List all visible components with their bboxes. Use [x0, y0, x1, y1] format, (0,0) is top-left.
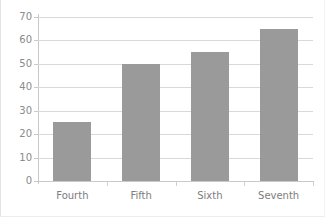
bar-chart-figure: 010203040506070 FourthFifthSixthSeventh — [0, 0, 325, 217]
x-axis-category-label: Fourth — [38, 190, 107, 201]
y-axis-tick-label: 10 — [4, 153, 32, 163]
y-axis-tick-mark — [34, 40, 38, 41]
x-axis-tick-mark — [244, 182, 245, 186]
x-axis-category-label: Sixth — [176, 190, 245, 201]
bar — [191, 52, 229, 181]
y-axis-tick-mark — [34, 181, 38, 182]
plot-area — [38, 17, 313, 181]
y-axis-tick-mark — [34, 64, 38, 65]
y-axis-tick-label: 0 — [4, 176, 32, 186]
x-axis-tick-mark — [313, 182, 314, 186]
y-axis-tick-mark — [34, 134, 38, 135]
x-axis-category-label: Seventh — [244, 190, 313, 201]
gridline — [38, 17, 313, 18]
y-axis-tick-mark — [34, 17, 38, 18]
y-axis-tick-label: 50 — [4, 59, 32, 69]
y-axis-tick-labels: 010203040506070 — [0, 0, 32, 217]
y-axis-tick-label: 60 — [4, 35, 32, 45]
y-axis-tick-label: 30 — [4, 106, 32, 116]
x-axis-tick-mark — [107, 182, 108, 186]
x-axis-tick-mark — [176, 182, 177, 186]
cropped-title-strip — [6, 0, 318, 7]
bar — [53, 122, 91, 181]
y-axis-tick-mark — [34, 87, 38, 88]
bar — [260, 29, 298, 181]
bar — [122, 64, 160, 181]
x-axis-category-label: Fifth — [107, 190, 176, 201]
y-axis-tick-label: 40 — [4, 82, 32, 92]
y-axis-tick-mark — [34, 158, 38, 159]
y-axis-tick-label: 70 — [4, 12, 32, 22]
y-axis-tick-label: 20 — [4, 129, 32, 139]
y-axis-tick-mark — [34, 111, 38, 112]
